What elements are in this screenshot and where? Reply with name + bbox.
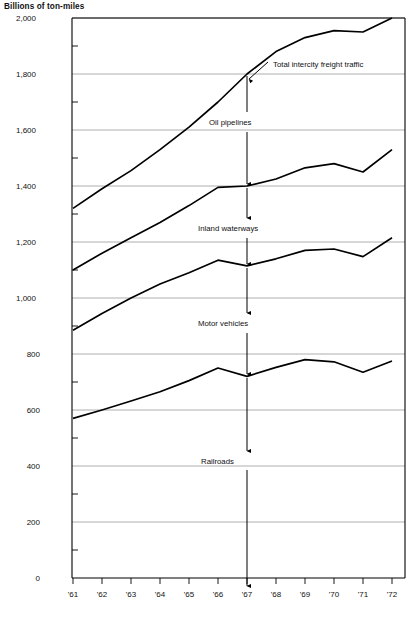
chart-container: Billions of ton-miles 2,000 1,800 1,600 …: [0, 0, 419, 617]
gridlines-major: [72, 18, 405, 522]
series-line-inland: [73, 238, 392, 330]
series-line-total: [73, 18, 392, 208]
plot-area: [0, 0, 419, 617]
footnote-cropped: [4, 610, 414, 617]
series-line-motor: [73, 360, 392, 419]
x-ticks: [73, 578, 392, 584]
